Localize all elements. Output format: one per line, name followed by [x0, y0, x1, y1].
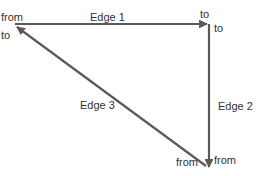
top-left-to-label: to — [1, 29, 10, 41]
edge-3-line — [17, 27, 206, 166]
top-right-to-label-2: to — [214, 22, 223, 34]
bottom-from-label-2: from — [214, 154, 236, 166]
bottom-from-label-1: from — [176, 156, 198, 168]
edge-2-label: Edge 2 — [218, 100, 253, 112]
top-right-to-label-1: to — [200, 8, 209, 20]
edge-1-label: Edge 1 — [90, 11, 125, 23]
edge-3-label: Edge 3 — [80, 99, 115, 111]
top-left-from-label: from — [1, 11, 23, 23]
